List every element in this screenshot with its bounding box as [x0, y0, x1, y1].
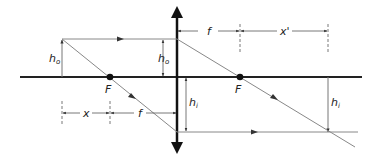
- object-height-dimension-lens: ho: [158, 40, 169, 76]
- focal-point-right: [237, 74, 244, 81]
- focal-length-label-top: f: [207, 25, 213, 38]
- image-height-dimension-lens: hi: [186, 78, 198, 131]
- bottom-dimensions: [62, 101, 176, 126]
- lens-bottom-arrow-icon: [171, 142, 183, 154]
- top-dimensions: [178, 24, 328, 53]
- focal-length-label-bottom: f: [138, 107, 144, 120]
- lens-top-arrow-icon: [171, 6, 183, 18]
- svg-text:ho: ho: [158, 52, 169, 66]
- object-height-label: ho: [49, 52, 60, 66]
- focal-point-left: [107, 74, 114, 81]
- focal-label-left: F: [105, 83, 112, 96]
- focal-label-right: F: [235, 83, 242, 96]
- svg-text:hi: hi: [189, 96, 198, 110]
- image-height-label: hi: [331, 96, 340, 110]
- object-distance-label: x: [82, 107, 90, 120]
- lens-diagram: F F ho ho hi hi f x' x f: [0, 0, 377, 160]
- image-distance-label: x': [279, 25, 290, 38]
